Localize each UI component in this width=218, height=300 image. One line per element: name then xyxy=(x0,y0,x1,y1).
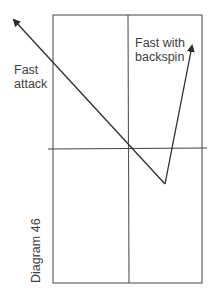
backspin-arrow xyxy=(165,46,192,184)
fast-attack-label-line1: Fast xyxy=(14,63,47,77)
backspin-label-line1: Fast with xyxy=(135,36,185,50)
net-line xyxy=(48,148,207,149)
fast-attack-label: Fast attack xyxy=(14,63,47,91)
fast-with-backspin-label: Fast with backspin xyxy=(135,36,185,64)
diagram-caption: Diagram 46 xyxy=(29,218,43,283)
backspin-label-line2: backspin xyxy=(135,50,185,64)
fast-attack-label-line2: attack xyxy=(14,77,47,91)
